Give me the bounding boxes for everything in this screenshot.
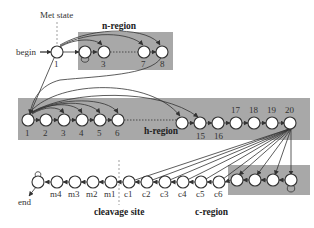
n-region-label: n-region: [102, 21, 137, 31]
h-region-label: h-region: [144, 126, 179, 136]
h-node-label: 19: [267, 105, 277, 115]
h-node-label: 6: [115, 128, 120, 138]
end-label: end: [18, 197, 31, 207]
state-node-n1: [51, 46, 63, 58]
c-node-label: c3: [160, 189, 169, 199]
h-node-label: 1: [25, 128, 30, 138]
n-node-label-3: 3: [101, 59, 106, 69]
c-chain-nodes: [32, 174, 297, 188]
state-node-n2: [79, 46, 91, 58]
h-node-label: 18: [249, 105, 259, 115]
h-node-label: 20: [285, 105, 295, 115]
h-node-label: 16: [214, 131, 224, 141]
n-node-label-8: 8: [160, 59, 165, 69]
c-node-label: c6: [214, 189, 223, 199]
h-node-label: 3: [61, 128, 66, 138]
begin-label: begin: [16, 47, 36, 57]
n-node-label-7: 7: [141, 59, 146, 69]
c-node-label: m2: [86, 189, 98, 199]
h-node-label: 15: [196, 131, 206, 141]
n-node-label-1: 1: [54, 59, 59, 69]
c-node-label: m4: [50, 189, 62, 199]
h-node-label: 17: [231, 105, 241, 115]
c-node-label: c5: [196, 189, 205, 199]
h-node-label: 5: [97, 128, 102, 138]
h-node-label: 2: [43, 128, 48, 138]
h-node-label: 4: [79, 128, 84, 138]
hmm-state-diagram: Met state n-region begin 1 3 7 8 1 2 3 4…: [0, 0, 314, 228]
c-region-label: c-region: [195, 207, 229, 217]
cleavage-site-label: cleavage site: [94, 207, 144, 217]
c-node-label: c4: [178, 189, 187, 199]
c-node-label: m1: [104, 189, 116, 199]
state-node-n7: [138, 46, 150, 58]
c-node-label: c1: [124, 189, 133, 199]
met-state-label: Met state: [40, 10, 73, 20]
c-node-label: m3: [68, 189, 80, 199]
state-node-n8: [156, 46, 168, 58]
c-node-label: c2: [142, 189, 151, 199]
state-node-n3: [98, 46, 110, 58]
